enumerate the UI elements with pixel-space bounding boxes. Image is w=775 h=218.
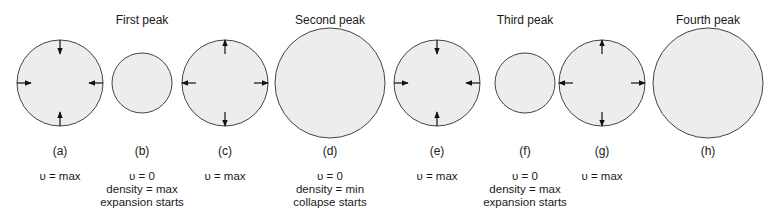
panel-letter-d: (d) — [323, 145, 338, 158]
star-circle-h — [653, 28, 763, 138]
desc-line: υ = max — [581, 170, 622, 183]
panel-letter-g: (g) — [595, 145, 610, 158]
desc-line: density = max — [100, 183, 184, 196]
desc-line: expansion starts — [100, 196, 184, 209]
star-circle-c — [182, 40, 268, 126]
panel-desc-a: υ = max — [39, 170, 80, 183]
panel-letter-h: (h) — [701, 145, 716, 158]
panel-letter-a: (a) — [53, 145, 68, 158]
panel-desc-d: υ = 0 density = min collapse starts — [293, 170, 367, 209]
star-circle-a — [17, 40, 103, 126]
panel-desc-c: υ = max — [204, 170, 245, 183]
panel-desc-g: υ = max — [581, 170, 622, 183]
star-circle-d — [275, 28, 385, 138]
desc-line: expansion starts — [483, 196, 567, 209]
panel-desc-b: υ = 0 density = max expansion starts — [100, 170, 184, 209]
panel-letter-c: (c) — [218, 145, 232, 158]
peak-title-third: Third peak — [497, 14, 554, 27]
desc-line: υ = max — [204, 170, 245, 183]
pulsation-diagram: First peak Second peak Third peak Fourth… — [0, 0, 775, 218]
panel-letter-b: (b) — [135, 145, 150, 158]
panel-desc-f: υ = 0 density = max expansion starts — [483, 170, 567, 209]
peak-title-second: Second peak — [295, 14, 365, 27]
desc-line: υ = 0 — [293, 170, 367, 183]
peak-title-fourth: Fourth peak — [676, 14, 740, 27]
star-circle-g — [559, 40, 645, 126]
desc-line: υ = max — [39, 170, 80, 183]
desc-line: density = min — [293, 183, 367, 196]
star-circle-b — [112, 53, 172, 113]
star-circle-f — [495, 53, 555, 113]
desc-line: collapse starts — [293, 196, 367, 209]
panel-desc-e: υ = max — [416, 170, 457, 183]
desc-line: density = max — [483, 183, 567, 196]
peak-title-first: First peak — [116, 14, 169, 27]
panel-letter-e: (e) — [430, 145, 445, 158]
desc-line: υ = 0 — [100, 170, 184, 183]
desc-line: υ = max — [416, 170, 457, 183]
desc-line: υ = 0 — [483, 170, 567, 183]
panel-letter-f: (f) — [519, 145, 530, 158]
star-circle-e — [394, 40, 480, 126]
